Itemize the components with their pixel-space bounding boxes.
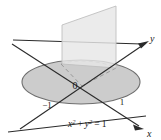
math-figure: y x 0 −1 1 x2+y2=1 bbox=[0, 0, 161, 140]
tick-label-positive-one: 1 bbox=[120, 97, 125, 107]
diagram-canvas: y x 0 −1 1 x2+y2=1 bbox=[0, 0, 161, 140]
tick-label-negative-one: −1 bbox=[42, 100, 52, 110]
circle-equation-label: x2+y2=1 bbox=[67, 118, 107, 130]
equation-y-exponent: 2 bbox=[89, 118, 93, 125]
origin-label: 0 bbox=[73, 80, 78, 91]
x-axis-label: x bbox=[146, 128, 152, 139]
equation-equals-sign: = bbox=[94, 119, 99, 129]
equation-plus-sign: + bbox=[77, 119, 82, 129]
equation-right-hand-side: 1 bbox=[102, 119, 107, 129]
svg-text:x2+y2=1: x2+y2=1 bbox=[67, 118, 107, 130]
vertical-plane-shape bbox=[62, 6, 116, 68]
equation-x-exponent: 2 bbox=[72, 118, 76, 125]
y-axis-label: y bbox=[149, 33, 155, 44]
